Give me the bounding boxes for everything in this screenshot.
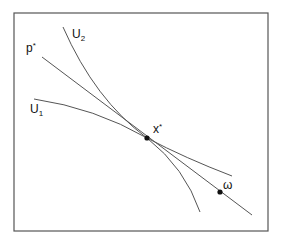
u2-label: U2: [72, 27, 86, 43]
x-star-point: [144, 135, 149, 140]
p-star-label: p*: [26, 41, 36, 55]
u2-curve: [63, 27, 200, 212]
u1-label: U1: [30, 102, 44, 118]
u1-curve: [34, 99, 232, 176]
omega-point: [217, 189, 222, 194]
omega-label: ω: [223, 178, 232, 192]
x-star-label: x*: [153, 122, 162, 136]
diagram-canvas: U2 p* U1 x* ω: [0, 0, 282, 243]
